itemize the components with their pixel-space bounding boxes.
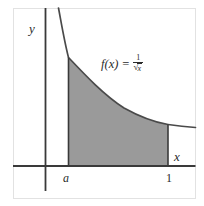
fraction-numerator: 1: [134, 54, 142, 62]
equals-sign: =: [122, 58, 129, 71]
fraction-denominator: √ x: [133, 63, 143, 73]
function-name-label: f(x): [101, 58, 118, 71]
x-axis-label: x: [174, 150, 180, 163]
x-tick-label-one: 1: [166, 172, 172, 184]
figure-root: y x a 1 f(x) = 1 √ x: [0, 0, 204, 206]
fraction-one-over-sqrt-x: 1 √ x: [133, 54, 143, 74]
sqrt-radicand: x: [137, 63, 142, 73]
x-tick-label-a: a: [63, 172, 69, 184]
function-annotation: f(x) = 1 √ x: [101, 54, 143, 74]
y-axis-label: y: [29, 22, 35, 35]
square-root-group: √ x: [133, 63, 142, 73]
